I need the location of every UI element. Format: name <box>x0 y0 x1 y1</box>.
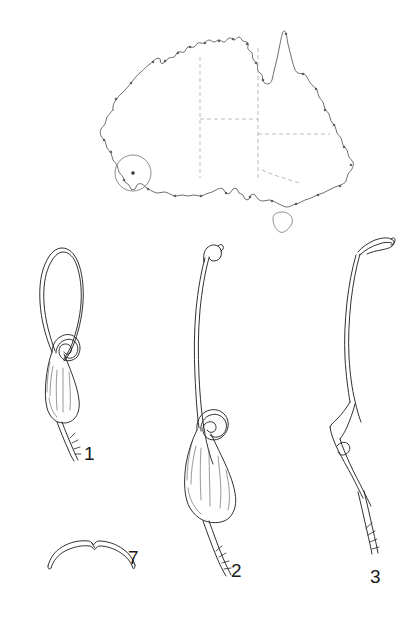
figure-3-lower-right <box>340 439 371 506</box>
figure-1-stalk-left <box>57 422 74 461</box>
locality-dot <box>131 171 135 175</box>
coastline-detail-ticks <box>103 33 352 205</box>
figure-3-node-lower <box>340 404 355 439</box>
botanical-plate: 1 2 3 7 <box>0 0 417 635</box>
figure-2-bulb-shading <box>187 442 229 514</box>
figure-1-drawing <box>40 248 84 461</box>
figure-label-2: 2 <box>231 561 242 580</box>
tasmania <box>273 212 292 232</box>
figure-label-7: 7 <box>128 548 139 567</box>
figure-label-3: 3 <box>370 567 381 586</box>
border-nsw-vic <box>262 170 300 183</box>
figure-7-drawing <box>48 541 135 569</box>
figure-2-drawing <box>185 245 236 577</box>
figure-3-stalk-right <box>364 491 378 553</box>
figure-3-node <box>330 402 350 427</box>
australia-map <box>100 31 353 232</box>
figure-7-arc-lower <box>51 546 133 568</box>
figure-7-cap-left <box>48 566 51 569</box>
figure-label-1: 1 <box>84 444 95 463</box>
figure-2-apex-hook <box>204 245 222 262</box>
figure-2-stem-right <box>198 258 213 464</box>
figure-1-bulb-shading <box>47 362 70 417</box>
plate-artwork <box>0 0 417 635</box>
figure-2-bristles <box>216 546 231 569</box>
australia-coastline <box>100 31 353 207</box>
figure-3-apex-tip <box>391 238 395 245</box>
state-borders <box>200 48 330 183</box>
figure-3-drawing <box>330 238 395 554</box>
figure-1-bristles <box>70 433 81 454</box>
figure-2-stalk-left <box>203 521 226 576</box>
figure-3-lower-left <box>330 427 363 498</box>
figure-3-stalk-left <box>358 492 372 554</box>
